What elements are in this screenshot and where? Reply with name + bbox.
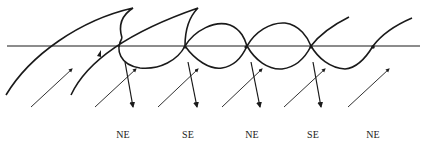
loop-label-4: SE bbox=[307, 129, 319, 140]
ne-arrow-1 bbox=[31, 69, 72, 107]
diagram-figure bbox=[0, 0, 427, 149]
loop-label-2: SE bbox=[182, 129, 194, 140]
crossing-point-2 bbox=[244, 45, 247, 48]
crossing-point-4 bbox=[371, 45, 375, 49]
loop-curve-3 bbox=[247, 23, 311, 46]
loop-curve-2 bbox=[185, 24, 247, 46]
loop-curve-2-bottom bbox=[185, 46, 247, 68]
s-arrow-2 bbox=[188, 62, 197, 107]
loop-label-3: NE bbox=[245, 129, 259, 140]
ne-arrow-3 bbox=[158, 69, 198, 107]
s-arrow-4 bbox=[313, 62, 321, 107]
ne-arrow-6 bbox=[348, 69, 389, 107]
exit-curve-2 bbox=[373, 18, 412, 46]
loop-label-1: NE bbox=[116, 129, 130, 140]
diagram-canvas: NE SE NE SE NE bbox=[0, 0, 427, 149]
loop-curve-1 bbox=[71, 8, 198, 95]
loop-curve-3-bottom bbox=[247, 46, 311, 69]
crossing-point-1 bbox=[183, 45, 186, 48]
direction-arrowhead-1 bbox=[97, 50, 101, 57]
loop-curve-4-bottom bbox=[311, 46, 373, 69]
left-arc-curve bbox=[6, 8, 133, 95]
loop-label-5: NE bbox=[366, 129, 380, 140]
ne-arrow-5 bbox=[284, 69, 325, 107]
s-arrow-1 bbox=[125, 62, 133, 107]
exit-curve-1 bbox=[311, 17, 349, 46]
s-arrow-3 bbox=[251, 62, 260, 107]
crossing-point-3 bbox=[309, 45, 312, 48]
